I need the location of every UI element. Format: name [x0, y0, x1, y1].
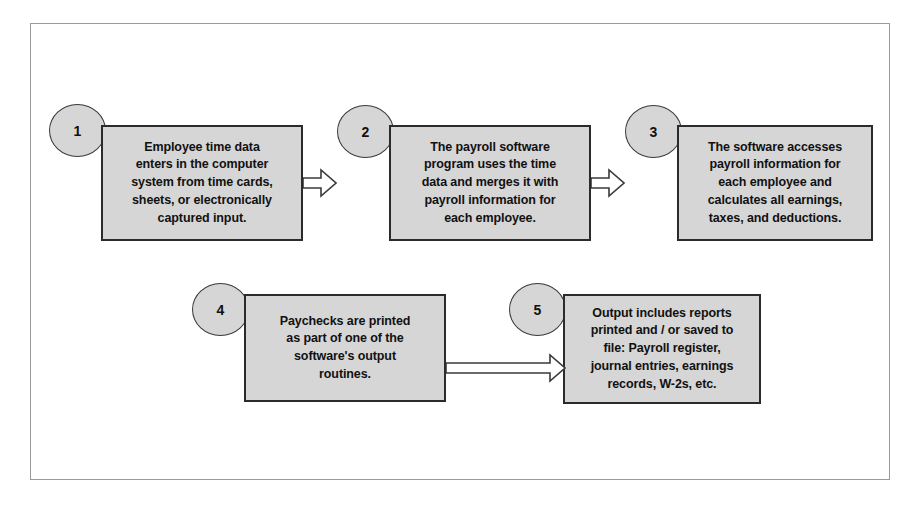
- step-circle-5: 5: [509, 283, 566, 336]
- step-circle-3: 3: [625, 105, 682, 158]
- step-text-5: Output includes reports printed and / or…: [583, 305, 742, 394]
- step-number-1: 1: [74, 123, 82, 139]
- step-number-3: 3: [650, 124, 658, 140]
- step-number-5: 5: [534, 302, 542, 318]
- step-text-1: Employee time data enters in the compute…: [123, 139, 281, 228]
- flowchart-diagram: 1 Employee time data enters in the compu…: [0, 0, 917, 507]
- arrow-step2-to-step3: [591, 168, 625, 198]
- step-text-3: The software accesses payroll informatio…: [700, 139, 850, 228]
- step-box-3: The software accesses payroll informatio…: [677, 125, 873, 241]
- step-circle-4: 4: [192, 283, 249, 336]
- step-box-1: Employee time data enters in the compute…: [101, 125, 303, 241]
- arrow-step1-to-step2: [303, 168, 337, 198]
- arrow-step4-to-step5: [446, 353, 566, 383]
- step-text-4: Paychecks are printed as part of one of …: [272, 313, 419, 384]
- step-circle-2: 2: [337, 105, 394, 158]
- step-circle-1: 1: [49, 104, 106, 157]
- step-number-2: 2: [362, 124, 370, 140]
- step-box-4: Paychecks are printed as part of one of …: [244, 294, 446, 402]
- step-box-5: Output includes reports printed and / or…: [563, 294, 761, 404]
- step-box-2: The payroll software program uses the ti…: [389, 125, 591, 241]
- step-number-4: 4: [217, 302, 225, 318]
- diagram-frame: 1 Employee time data enters in the compu…: [30, 23, 890, 480]
- step-text-2: The payroll software program uses the ti…: [414, 139, 567, 228]
